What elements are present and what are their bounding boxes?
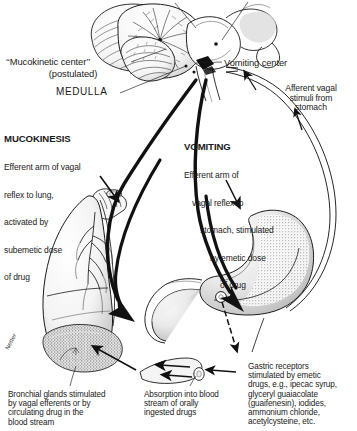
absorption-caption: Absorption into blood stream of orally i… (144, 390, 240, 418)
afferent-arrow-to-medulla (246, 74, 256, 90)
bronchial-glands-caption: Bronchial glands stimulated by vagal eff… (8, 390, 140, 427)
mucokinesis-line-3: activated by (4, 218, 108, 228)
mucokinesis-line-5: of drug (4, 273, 108, 283)
mucokinesis-line-1: Efferent arm of vagal (4, 163, 108, 173)
vomiting-line-4: by emetic dose (184, 254, 296, 264)
vomiting-text-block: VOMITING Efferent arm of vagal reflex to… (184, 124, 296, 309)
vomiting-line-2: vagal reflex to (184, 199, 296, 209)
vomiting-line-3: stomach, stimulated (184, 226, 296, 236)
mucokinetic-center-label: ‘‘Mucokinetic center’’ (6, 57, 140, 68)
mucokinesis-vomiting-diagram: ‘‘Mucokinetic center’’ (postulated) MEDU… (0, 0, 357, 431)
mucokinetic-center-sublabel: (postulated) (6, 69, 140, 80)
gastric-receptors-caption: Gastric receptors stimulated by emetic d… (248, 362, 354, 426)
afferent-vagal-stimuli-label: Afferent vagal stimuli from stomach (268, 84, 354, 113)
afferent-arrow-mid (296, 112, 302, 130)
vomiting-title: VOMITING (184, 142, 296, 153)
vomiting-line-5: of drug (184, 281, 296, 291)
mucokinesis-title: MUCOKINESIS (4, 134, 108, 145)
medulla-label: MEDULLA (56, 86, 146, 97)
mucokinesis-line-2: reflex to lung, (4, 191, 108, 201)
mucokinesis-line-4: subemetic dose (4, 246, 108, 256)
mucokinesis-text-block: MUCOKINESIS Efferent arm of vagal reflex… (4, 116, 108, 301)
vomiting-center-label: Vomiting center (224, 58, 344, 69)
vomiting-line-1: Efferent arm of (184, 171, 296, 181)
blood-vessel-segment (140, 358, 204, 383)
